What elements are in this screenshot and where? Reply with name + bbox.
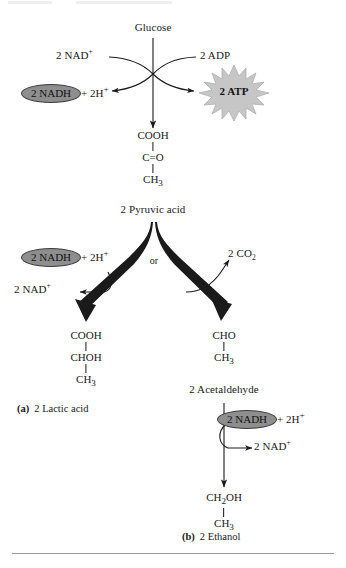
ethanol-bond-1 [224, 508, 225, 517]
branch-wedge-alcoholic [155, 222, 228, 309]
pyruvate-line-cooh: COOH [137, 129, 168, 141]
label-adp-input: 2 ADP [200, 50, 230, 62]
arrowhead-alcoholic-branch [211, 298, 232, 321]
arrow-nadh-to-nad-lactic [80, 272, 111, 292]
pyruvate-line-carbonyl: C=O [142, 151, 163, 163]
pyruvate-line-methyl: CH3 [143, 173, 163, 185]
caption-tag-a: (a) [17, 403, 29, 414]
caption-text-a: 2 Lactic acid [34, 403, 88, 414]
lactic-bond-1 [85, 342, 86, 351]
caption-tag-b: (b) [182, 531, 195, 542]
header-remnant-fragment-left [8, 1, 52, 4]
caption-text-b: 2 Ethanol [200, 531, 241, 542]
pyruvate-bond-2 [152, 164, 153, 173]
acetaldehyde-line-methyl: CH3 [214, 351, 234, 363]
label-nad-output-ethanol: 2 NAD+ [254, 441, 291, 453]
lactic-line-choh: CHOH [70, 351, 101, 363]
nadh-highlight-ellipse: 2 NADH [22, 85, 80, 102]
label-or: or [150, 256, 159, 267]
pyruvate-bond-1 [152, 142, 153, 151]
label-nadh-lactic: 2 NADH+ 2H+ [22, 248, 109, 266]
nadh-highlight-ellipse-ethanol: 2 NADH [218, 411, 276, 428]
arrow-nad-to-atp-curve [109, 57, 194, 91]
atp-starburst: 2 ATP [198, 64, 270, 122]
label-co2-output: 2 CO2 [228, 248, 256, 260]
arrowhead-lactic-branch [75, 299, 96, 322]
bottom-divider [12, 553, 334, 554]
fermentation-pathway-figure: Glucose 2 NAD+ 2 ADP 2 NADH+ 2H+ 2 ATP C… [0, 0, 346, 568]
formula-ethanol: CH2OH CH3 [206, 492, 242, 532]
label-nad-input-charge: + [89, 47, 93, 56]
nadh-ethanol-charge: + [299, 410, 304, 420]
label-acetaldehyde: 2 Acetaldehyde [189, 384, 259, 396]
nadh-glycolysis-tail: + 2H [81, 87, 103, 99]
ethanol-line-hydroxymethyl: CH2OH [206, 491, 242, 503]
lactic-line-cooh: COOH [70, 329, 101, 341]
nadh-ethanol-tail: + 2H [277, 413, 299, 425]
ethanol-line-methyl: CH3 [214, 517, 234, 529]
caption-ethanol: (b)2 Ethanol [182, 531, 240, 542]
cropped-header-remnant [0, 0, 346, 7]
lactic-bond-2 [85, 364, 86, 373]
nadh-highlight-ellipse-lactic: 2 NADH [22, 249, 80, 266]
formula-lactic-acid: COOH CHOH CH3 [70, 330, 101, 389]
formula-acetaldehyde: CHO CH3 [212, 330, 235, 367]
label-pyruvic-acid: 2 Pyruvic acid [121, 204, 186, 216]
header-remnant-fragment-right [76, 1, 172, 4]
arrow-co2-release [186, 260, 229, 292]
label-atp-output: 2 ATP [198, 85, 270, 97]
label-nad-input-text: 2 NAD [56, 49, 89, 61]
nadh-glycolysis-charge: + [103, 84, 108, 94]
label-nadh-glycolysis: 2 NADH+ 2H+ [22, 84, 109, 102]
label-nadh-ethanol: 2 NADH+ 2H+ [218, 410, 305, 428]
label-nad-input: 2 NAD+ [56, 50, 93, 62]
nadh-lactic-tail: + 2H [81, 251, 103, 263]
lactic-line-methyl: CH3 [76, 373, 96, 385]
label-glucose: Glucose [135, 22, 172, 34]
caption-lactic-acid: (a)2 Lactic acid [17, 403, 88, 414]
label-nad-output-lactic: 2 NAD+ [14, 284, 51, 296]
branch-wedge-lactic [78, 222, 153, 310]
acetaldehyde-bond-1 [223, 342, 224, 351]
formula-pyruvate: COOH C=O CH3 [137, 130, 168, 189]
nadh-lactic-charge: + [103, 248, 108, 258]
acetaldehyde-line-cho: CHO [212, 329, 235, 341]
arrow-adp-to-nadh-curve [112, 57, 196, 91]
